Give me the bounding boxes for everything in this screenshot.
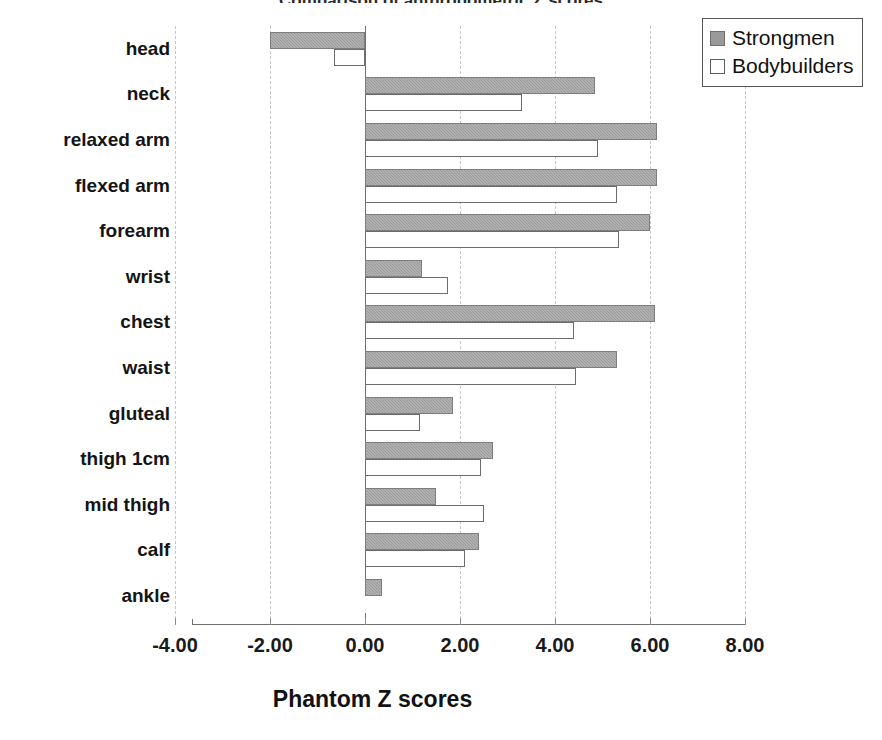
category-label-mid-thigh: mid thigh	[85, 494, 170, 516]
bar-thigh-1cm-bodybuilders	[365, 459, 481, 476]
legend-label-strongmen: Strongmen	[732, 26, 835, 50]
x-tick--2.00	[270, 618, 271, 625]
bar-thigh-1cm-strongmen	[365, 442, 493, 459]
x-tick-4.00	[555, 618, 556, 625]
bar-head-strongmen	[270, 32, 365, 49]
bar-ankle-bodybuilders	[365, 596, 366, 613]
bar-neck-strongmen	[365, 77, 595, 94]
x-axis-line	[192, 624, 745, 625]
x-tick-6.00	[650, 618, 651, 625]
bar-neck-bodybuilders	[365, 94, 522, 111]
x-tick-label--2.00: -2.00	[247, 634, 293, 657]
bar-chest-strongmen	[365, 305, 655, 322]
x-axis-left-cap	[192, 619, 193, 625]
bar-chest-bodybuilders	[365, 322, 574, 339]
category-label-flexed-arm: flexed arm	[75, 175, 170, 197]
bar-mid-thigh-bodybuilders	[365, 505, 484, 522]
x-tick-2.00	[460, 618, 461, 625]
category-label-chest: chest	[120, 311, 170, 333]
bar-ankle-strongmen	[365, 579, 382, 596]
bar-mid-thigh-strongmen	[365, 488, 436, 505]
bar-relaxed-arm-bodybuilders	[365, 140, 598, 157]
x-tick--4.00	[175, 618, 176, 625]
x-tick-label-0.00: 0.00	[346, 634, 385, 657]
legend-item-strongmen: Strongmen	[710, 24, 853, 52]
bar-forearm-bodybuilders	[365, 231, 619, 248]
x-tick-8.00	[745, 618, 746, 625]
x-axis-title: Phantom Z scores	[0, 686, 745, 713]
legend-label-bodybuilders: Bodybuilders	[732, 54, 853, 78]
bar-flexed-arm-strongmen	[365, 169, 657, 186]
legend-swatch-bodybuilders-icon	[710, 59, 725, 74]
category-label-neck: neck	[127, 83, 170, 105]
x-tick-label-2.00: 2.00	[441, 634, 480, 657]
category-label-head: head	[126, 38, 170, 60]
category-label-ankle: ankle	[121, 585, 170, 607]
bar-waist-bodybuilders	[365, 368, 576, 385]
bar-gluteal-strongmen	[365, 397, 453, 414]
x-tick-label-6.00: 6.00	[631, 634, 670, 657]
x-tick-0.00	[365, 618, 366, 625]
category-label-wrist: wrist	[126, 266, 170, 288]
bar-calf-bodybuilders	[365, 550, 465, 567]
bar-head-bodybuilders	[334, 49, 365, 66]
category-label-forearm: forearm	[99, 220, 170, 242]
category-label-relaxed-arm: relaxed arm	[63, 129, 170, 151]
x-tick-label--4.00: -4.00	[152, 634, 198, 657]
bar-wrist-strongmen	[365, 260, 422, 277]
category-label-calf: calf	[137, 539, 170, 561]
x-tick-label-4.00: 4.00	[536, 634, 575, 657]
chart-title: Comparison of anthropometric Z scores	[0, 0, 882, 3]
legend-item-bodybuilders: Bodybuilders	[710, 52, 853, 80]
category-label-thigh-1cm: thigh 1cm	[80, 448, 170, 470]
category-label-waist: waist	[122, 357, 170, 379]
bar-relaxed-arm-strongmen	[365, 123, 657, 140]
phantom-z-scores-bar-chart: Comparison of anthropometric Z scores -4…	[0, 0, 882, 740]
bar-forearm-strongmen	[365, 214, 650, 231]
gridline-6.00	[650, 26, 651, 624]
gridline-8.00	[745, 26, 746, 624]
gridline--2.00	[270, 26, 271, 624]
legend-swatch-strongmen-icon	[710, 31, 725, 46]
gridline--4.00	[175, 26, 176, 624]
chart-legend: Strongmen Bodybuilders	[702, 18, 863, 87]
bar-wrist-bodybuilders	[365, 277, 448, 294]
bar-gluteal-bodybuilders	[365, 414, 420, 431]
bar-waist-strongmen	[365, 351, 617, 368]
category-label-gluteal: gluteal	[109, 403, 170, 425]
x-tick-label-8.00: 8.00	[726, 634, 765, 657]
bar-calf-strongmen	[365, 533, 479, 550]
bar-flexed-arm-bodybuilders	[365, 186, 617, 203]
